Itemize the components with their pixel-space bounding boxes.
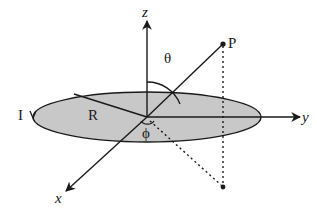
point-p-label: P — [228, 35, 236, 51]
projection-point-dot — [221, 185, 226, 190]
radius-label: R — [88, 107, 98, 123]
point-p-dot — [220, 41, 225, 46]
y-axis-label: y — [300, 109, 309, 125]
current-loop-diagram: z y x P θ ϕ R I — [0, 0, 317, 214]
current-label: I — [18, 107, 23, 123]
x-axis-label: x — [54, 190, 62, 206]
theta-label: θ — [164, 50, 171, 66]
z-axis-label: z — [141, 4, 148, 20]
diagram-canvas: z y x P θ ϕ R I — [0, 0, 317, 214]
phi-label: ϕ — [142, 125, 150, 141]
